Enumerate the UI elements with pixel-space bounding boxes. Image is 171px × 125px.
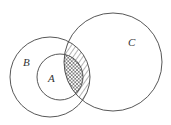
label-a: A	[47, 72, 55, 84]
venn-diagram: B A C	[0, 0, 171, 125]
region-b-intersect-c	[64, 13, 162, 111]
venn-svg: B A C	[0, 0, 171, 125]
label-c: C	[128, 36, 136, 48]
label-b: B	[23, 56, 30, 68]
